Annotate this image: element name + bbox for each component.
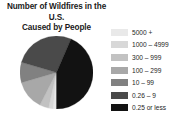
legend-item: 100 – 299 xyxy=(111,64,184,77)
legend-item: 5000 + xyxy=(111,26,184,39)
wildfires-pie-chart-figure: Number of Wildfires in the U.S. Caused b… xyxy=(0,0,184,122)
legend-item: 300 – 999 xyxy=(111,51,184,64)
pie-chart-svg xyxy=(20,36,93,109)
legend-swatch xyxy=(111,41,128,48)
legend-swatch xyxy=(111,92,128,99)
legend-label: 10 – 99 xyxy=(132,79,154,86)
chart-title-line-1: Number of Wildfires in the U.S. xyxy=(0,2,113,23)
legend-label: 1000 – 4999 xyxy=(132,41,169,48)
legend-swatch xyxy=(111,29,128,36)
legend-item: 10 – 99 xyxy=(111,76,184,89)
pie-chart xyxy=(20,36,93,109)
legend-swatch xyxy=(111,104,128,111)
legend-label: 300 – 999 xyxy=(132,54,161,61)
legend-item: 0.26 – 9 xyxy=(111,89,184,102)
legend-label: 0.26 – 9 xyxy=(132,92,156,99)
legend-label: 100 – 299 xyxy=(132,67,161,74)
legend-swatch xyxy=(111,79,128,86)
chart-title-line-2: Caused by People xyxy=(0,23,113,34)
legend-item: 0.25 or less xyxy=(111,102,184,115)
legend-swatch xyxy=(111,67,128,74)
legend-label: 0.25 or less xyxy=(132,104,166,111)
chart-legend: 5000 +1000 – 4999300 – 999100 – 29910 – … xyxy=(111,26,184,114)
chart-title: Number of Wildfires in the U.S. Caused b… xyxy=(0,2,113,34)
legend-swatch xyxy=(111,54,128,61)
legend-label: 5000 + xyxy=(132,29,152,36)
legend-item: 1000 – 4999 xyxy=(111,39,184,52)
